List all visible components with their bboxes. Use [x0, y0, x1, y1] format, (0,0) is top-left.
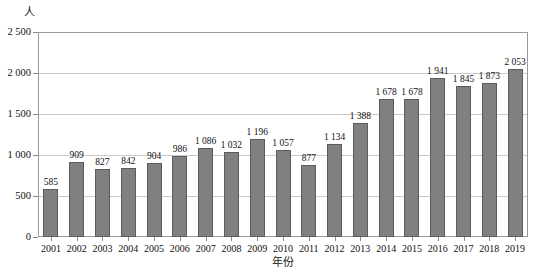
bar-value-label: 1 196 [235, 127, 279, 137]
y-tick-mark [33, 73, 38, 74]
bar [224, 152, 239, 237]
bar [301, 165, 316, 237]
x-axis-title: 年份 [243, 256, 323, 268]
y-tick-label: 500 [0, 190, 31, 201]
x-tick-mark [412, 237, 413, 241]
bar-chart: 人 05001 0001 5002 0002 500 2001200220032… [0, 0, 554, 279]
bar [121, 168, 136, 237]
x-tick-label: 2019 [499, 243, 531, 254]
y-tick-mark [33, 114, 38, 115]
bar-value-label: 1 032 [209, 140, 253, 150]
x-tick-mark [206, 237, 207, 241]
bar-value-label: 1 057 [261, 138, 305, 148]
bar [430, 78, 445, 237]
x-tick-mark [464, 237, 465, 241]
bar [456, 86, 471, 237]
y-tick-mark [33, 32, 38, 33]
bar-value-label: 1 134 [313, 132, 357, 142]
bar-value-label: 585 [29, 177, 73, 187]
bar [327, 144, 342, 237]
bar [43, 189, 58, 237]
x-tick-mark [257, 237, 258, 241]
y-tick-mark [33, 155, 38, 156]
x-tick-mark [231, 237, 232, 241]
bar [353, 123, 368, 237]
bar [69, 162, 84, 237]
bar [147, 163, 162, 237]
bar [172, 156, 187, 237]
x-tick-mark [335, 237, 336, 241]
bar-value-label: 2 053 [493, 57, 537, 67]
x-tick-mark [515, 237, 516, 241]
bar [508, 69, 523, 237]
x-tick-mark [438, 237, 439, 241]
x-tick-mark [77, 237, 78, 241]
bar [250, 139, 265, 237]
y-axis-unit-label: 人 [24, 6, 35, 18]
x-tick-mark [102, 237, 103, 241]
bar-value-label: 1 388 [338, 111, 382, 121]
x-tick-mark [128, 237, 129, 241]
y-tick-label: 2 000 [0, 67, 31, 78]
x-tick-mark [51, 237, 52, 241]
bar-value-label: 1 873 [467, 71, 511, 81]
y-tick-mark [33, 196, 38, 197]
y-tick-label: 1 000 [0, 149, 31, 160]
x-tick-mark [489, 237, 490, 241]
bar [198, 148, 213, 237]
x-tick-mark [283, 237, 284, 241]
bar [482, 83, 497, 237]
bar [95, 169, 110, 237]
bar-value-label: 1 678 [390, 87, 434, 97]
y-tick-label: 2 500 [0, 26, 31, 37]
gridline [39, 114, 527, 115]
x-tick-mark [386, 237, 387, 241]
y-tick-mark [33, 237, 38, 238]
y-tick-label: 0 [0, 231, 31, 242]
bar [379, 99, 394, 237]
x-tick-mark [154, 237, 155, 241]
x-tick-mark [309, 237, 310, 241]
x-tick-mark [180, 237, 181, 241]
bar-value-label: 877 [287, 153, 331, 163]
bar [276, 150, 291, 237]
bar [404, 99, 419, 237]
x-tick-mark [360, 237, 361, 241]
y-tick-label: 1 500 [0, 108, 31, 119]
